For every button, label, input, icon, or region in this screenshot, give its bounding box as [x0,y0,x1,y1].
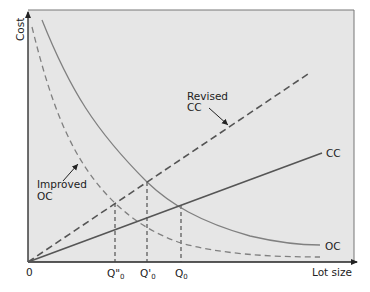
origin-label: 0 [26,267,33,278]
tick-q0: Q0 [175,268,188,283]
cc-label: CC [326,148,341,159]
x-axis-label: Lot size [312,267,352,278]
tick-q-prime-main: Q' [140,267,151,279]
plot-area [28,10,354,262]
tick-q-double-prime-main: Q" [107,267,120,279]
improved-oc-label-line1: Improved [37,179,87,190]
y-axis-label: Cost [15,18,26,41]
oc-label: OC [325,241,341,252]
improved-oc-label-line2: OC [37,191,53,202]
tick-q-double-prime-sub: 0 [120,273,124,281]
tick-q-prime: Q'0 [140,268,156,283]
tick-q-double-prime: Q"0 [107,268,125,283]
chart-canvas [0,0,370,292]
tick-q-prime-sub: 0 [151,273,155,281]
tick-q0-sub: 0 [183,273,187,281]
revised-cc-label-line2: CC [187,102,202,113]
